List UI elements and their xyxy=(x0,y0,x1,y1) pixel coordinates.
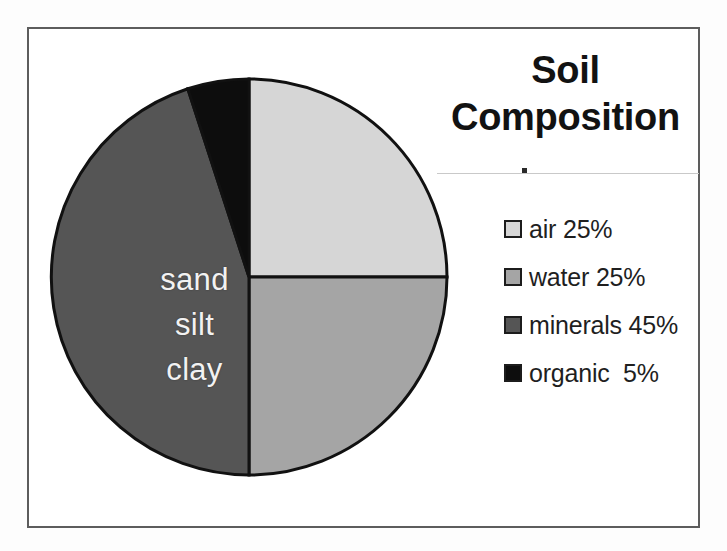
pie-label-silt: silt xyxy=(127,302,262,347)
legend-item-organic[interactable]: organic 5% xyxy=(504,349,704,397)
pie-label-clay: clay xyxy=(127,347,262,392)
legend-swatch-organic xyxy=(504,364,522,382)
title-and-legend-column: Soil Composition air 25% water 25% miner… xyxy=(429,29,702,530)
legend-item-air[interactable]: air 25% xyxy=(504,205,704,253)
legend-swatch-minerals xyxy=(504,316,522,334)
chart-frame: sand silt clay Soil Composition air 25% xyxy=(27,27,700,528)
legend-label-air: air 25% xyxy=(529,215,612,244)
legend-swatch-air xyxy=(504,220,522,238)
title-divider xyxy=(437,173,699,174)
legend-label-minerals: minerals 45% xyxy=(529,311,678,340)
page-background: sand silt clay Soil Composition air 25% xyxy=(0,0,727,551)
minerals-slice-label: sand silt clay xyxy=(127,257,262,392)
legend-label-water: water 25% xyxy=(529,263,645,292)
legend-label-organic: organic 5% xyxy=(529,359,659,388)
pie-chart-area: sand silt clay xyxy=(29,29,469,530)
divider-dot-artifact xyxy=(522,168,527,173)
title-line-1: Soil xyxy=(429,47,702,94)
legend-item-minerals[interactable]: minerals 45% xyxy=(504,301,704,349)
pie-slice-air[interactable] xyxy=(249,79,447,277)
chart-legend: air 25% water 25% minerals 45% organic 5… xyxy=(504,205,704,397)
page-title: Soil Composition xyxy=(429,47,702,141)
legend-swatch-water xyxy=(504,268,522,286)
legend-item-water[interactable]: water 25% xyxy=(504,253,704,301)
title-line-2: Composition xyxy=(429,94,702,141)
pie-slice-water[interactable] xyxy=(249,277,447,475)
pie-label-sand: sand xyxy=(127,257,262,302)
